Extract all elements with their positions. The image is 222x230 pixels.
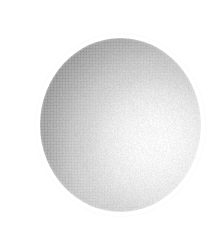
sphere-illustration bbox=[40, 38, 201, 212]
sphere-body bbox=[40, 38, 201, 212]
figure-canvas bbox=[0, 0, 222, 230]
